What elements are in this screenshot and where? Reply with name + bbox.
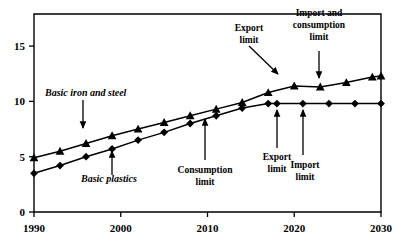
arrow-export-limit-top (249, 46, 278, 74)
x-tick-label: 1990 (23, 222, 46, 234)
label-consumption-limit-line1: Consumption (178, 165, 234, 175)
data-point-marker (264, 100, 272, 108)
data-point-marker (186, 120, 194, 128)
data-point-marker (212, 112, 220, 120)
x-tick-label: 2030 (370, 222, 393, 234)
x-axis-tick-labels: 19902000201020202030 (23, 222, 393, 234)
label-export-limit-bottom-line1: Export (263, 152, 292, 162)
data-point-marker (134, 136, 142, 144)
data-point-marker (351, 100, 359, 108)
y-tick-label: 5 (20, 151, 26, 163)
data-point-marker (325, 100, 333, 108)
data-point-marker (82, 153, 90, 161)
series-line-1 (34, 104, 381, 174)
data-point-marker (377, 100, 385, 108)
label-export-limit-bottom-line2: limit (268, 164, 288, 174)
y-tick-label: 10 (14, 95, 26, 107)
label-import-and-consumption-limit-line2: consumption (293, 20, 346, 30)
label-basic-iron-and-steel: Basic iron and steel (44, 87, 127, 98)
annotation-labels: Basic iron and steel Basic plastics Expo… (44, 8, 346, 187)
y-axis-tick-labels: 051015 (14, 40, 26, 218)
x-tick-label: 2000 (110, 222, 133, 234)
label-export-limit-top-line1: Export (235, 23, 264, 33)
x-tick-label: 2020 (283, 222, 306, 234)
data-point-marker (160, 128, 168, 136)
label-consumption-limit-line2: limit (196, 177, 216, 187)
chart-container: 051015 19902000201020202030 Basic iron a… (0, 0, 406, 251)
data-point-marker (30, 169, 38, 177)
y-tick-label: 15 (14, 40, 26, 52)
label-basic-plastics: Basic plastics (80, 173, 137, 184)
label-import-and-consumption-limit-line1: Import and (296, 8, 343, 18)
label-import-and-consumption-limit-line3: limit (310, 32, 330, 42)
y-tick-label: 0 (20, 206, 26, 218)
label-export-limit-top-line2: limit (240, 35, 260, 45)
chart-svg: 051015 19902000201020202030 Basic iron a… (0, 0, 406, 251)
x-tick-label: 2010 (197, 222, 220, 234)
data-point-marker (377, 72, 386, 80)
label-import-limit-line2: limit (296, 172, 316, 182)
data-point-marker (56, 162, 64, 170)
data-point-marker (299, 100, 307, 108)
data-point-marker (273, 100, 281, 108)
label-import-limit-line1: Import (290, 160, 320, 170)
